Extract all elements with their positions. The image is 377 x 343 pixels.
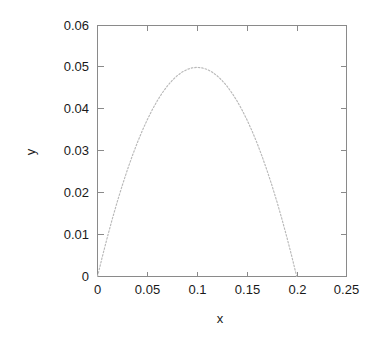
- x-tick-label-4: 0.2: [288, 282, 306, 297]
- y-tick-label-1: 0.01: [64, 227, 89, 242]
- plot-canvas: 0 0.05 0.1 0.15 0.2 0.25 0 0.01 0.02 0.0…: [0, 0, 377, 343]
- x-tick-label-3: 0.15: [235, 282, 260, 297]
- y-tick-label-2: 0.02: [64, 185, 89, 200]
- y-tick-label-6: 0.06: [64, 18, 89, 33]
- y-tick-label-4: 0.04: [64, 101, 89, 116]
- y-tick-label-5: 0.05: [64, 59, 89, 74]
- x-tick-label-1: 0.05: [135, 282, 160, 297]
- x-tick-label-2: 0.1: [188, 282, 206, 297]
- chart-page: 0 0.05 0.1 0.15 0.2 0.25 0 0.01 0.02 0.0…: [0, 0, 377, 343]
- x-tick-label-5: 0.25: [334, 282, 359, 297]
- x-axis-title: x: [217, 311, 224, 326]
- y-tick-label-3: 0.03: [64, 143, 89, 158]
- y-tick-label-0: 0: [82, 269, 89, 284]
- x-tick-label-0: 0: [94, 282, 101, 297]
- y-axis-title: y: [23, 148, 38, 155]
